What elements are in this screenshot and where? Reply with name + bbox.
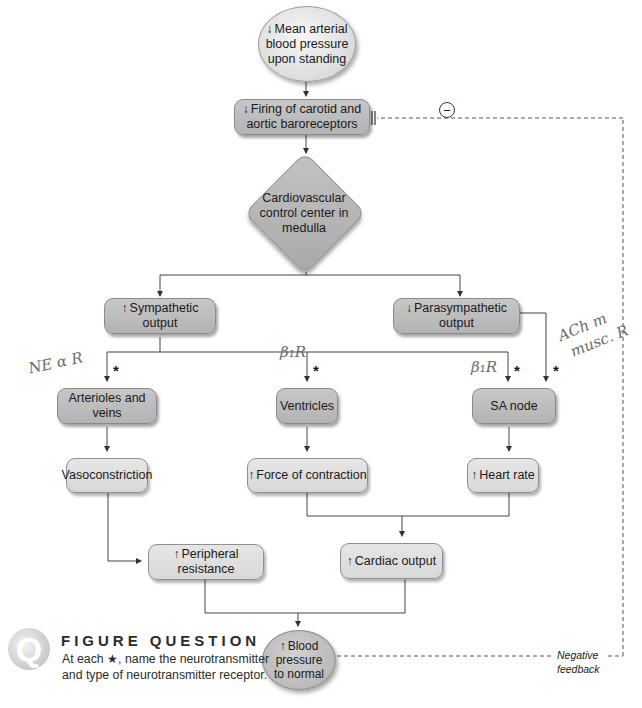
negative-feedback-label: Negative feedback [557,648,600,676]
up-arrow-icon: ↑ [174,547,180,561]
inhibition-minus-icon: − [439,102,455,118]
up-arrow-icon: ↑ [248,468,254,482]
figure-question-body: At each ★, name the neurotransmitter and… [62,651,272,683]
question-letter-icon: Q [8,628,50,670]
mean-arterial-pressure-node: ↓Mean arterial blood pressure upon stand… [258,6,356,82]
node-label: Arterioles and veins [58,391,156,421]
star-marker-sa-para: * [553,363,559,378]
force-of-contraction-node: ↑Force of contraction [247,458,368,493]
handwritten-note-right: β₁R [471,358,497,376]
down-arrow-icon: ↓ [267,22,273,36]
node-label: Vasoconstriction [62,468,153,483]
vasoconstriction-node: Vasoconstriction [66,458,148,493]
node-label: SA node [490,399,537,414]
parasympathetic-output-node: ↓Parasympathetic output [393,298,520,334]
up-arrow-icon: ↑ [471,468,477,482]
baroreceptors-node: ↓Firing of carotid and aortic barorecept… [234,99,370,135]
up-arrow-icon: ↑ [122,301,128,315]
node-label: Firing of carotid and aortic barorecepto… [246,102,361,131]
handwritten-note-middle: β₁R [280,343,306,361]
node-label: Ventricles [280,399,334,414]
heart-rate-node: ↑Heart rate [467,458,539,493]
peripheral-resistance-node: ↑Peripheral resistance [148,544,264,580]
arterioles-veins-node: Arterioles and veins [57,388,157,424]
cardiac-output-node: ↑Cardiac output [340,543,443,579]
star-marker-sa-symp: * [514,363,520,378]
node-label: Peripheral resistance [178,547,239,576]
ventricles-node: Ventricles [276,388,338,424]
sa-node-node: SA node [472,388,556,424]
control-center-label: Cardiovascular control center in medulla [252,186,356,240]
up-arrow-icon: ↑ [280,639,286,653]
figure-question-title: FIGURE QUESTION [61,632,260,649]
blood-pressure-normal-node: ↑Blood pressure to normal [262,630,336,690]
down-arrow-icon: ↓ [243,102,249,116]
up-arrow-icon: ↑ [347,554,353,568]
node-label: Mean arterial blood pressure upon standi… [266,22,349,66]
sympathetic-output-node: ↑Sympathetic output [104,298,216,334]
node-label: Parasympathetic output [414,301,507,330]
node-label: Force of contraction [256,468,366,482]
down-arrow-icon: ↓ [406,301,412,315]
node-label: Heart rate [479,468,535,482]
star-marker-arterioles: * [113,363,119,378]
star-marker-ventricles: * [313,363,319,378]
node-label: Cardiac output [355,554,436,568]
node-label: Sympathetic output [130,301,199,330]
